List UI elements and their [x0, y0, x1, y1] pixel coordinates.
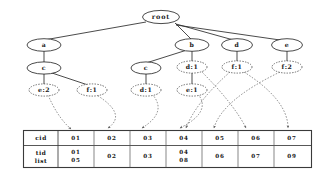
table-cell-cid-7: 07: [287, 135, 296, 141]
node-c-left[interactable]: c: [27, 62, 61, 74]
node-e2[interactable]: e:2: [29, 84, 59, 96]
node-e1[interactable]: e:1: [177, 84, 207, 96]
table-row-label-tid: tid: [36, 150, 47, 156]
link-f1top-to-col04b: [186, 72, 230, 128]
tree-nodes: root a b d e c c d:1: [27, 10, 303, 96]
node-e[interactable]: e: [272, 39, 303, 52]
tree-edges: [44, 22, 287, 85]
table-cell-cid-4: 04: [179, 135, 188, 141]
table-cell-tid-5: 06: [215, 153, 224, 159]
node-f1-bot[interactable]: f:1: [77, 84, 107, 96]
node-d1-bot[interactable]: d:1: [131, 84, 161, 96]
node-b[interactable]: b: [175, 39, 209, 52]
link-d1bot-to-col03: [142, 94, 158, 128]
node-e2-label: e:2: [38, 86, 50, 93]
link-e2-to-col01: [48, 95, 71, 129]
table-cell-cid-5: 05: [215, 135, 224, 141]
edge-b-cmid: [146, 50, 187, 63]
node-f1-bot-label: f:1: [87, 86, 98, 93]
node-e-label: e: [285, 41, 290, 48]
node-root-label: root: [152, 13, 170, 21]
node-c-left-label: c: [42, 64, 46, 71]
table-row-label-cid: cid: [35, 135, 47, 141]
node-d-label: d: [235, 41, 240, 48]
table-outer-frame: [24, 131, 312, 168]
link-f1top-to-col07: [244, 72, 288, 128]
node-c-mid[interactable]: c: [131, 62, 161, 74]
table-cell-tid-2: 02: [107, 153, 116, 159]
table-cell-tid-3: 03: [143, 153, 152, 159]
fp-tree-diagram: root a b d e c c d:1: [0, 0, 321, 178]
link-f1bot-to-col02: [95, 94, 116, 128]
cid-tid-table: cid tid list 01 02 03 04 05 06 07 01 05 …: [24, 131, 312, 168]
node-b-label: b: [190, 41, 195, 48]
table-row-label-list: list: [35, 158, 48, 164]
table-cell-tid-4a: 04: [179, 149, 188, 155]
node-d[interactable]: d: [222, 39, 253, 52]
node-f1-top[interactable]: f:1: [222, 61, 252, 73]
table-cell-cid-1: 01: [71, 135, 80, 141]
node-d1-bot-label: d:1: [140, 86, 153, 93]
node-d1-top[interactable]: d:1: [177, 61, 207, 73]
node-f2-top-label: f:2: [282, 63, 293, 70]
node-c-mid-label: c: [144, 64, 148, 71]
node-a-label: a: [42, 41, 47, 48]
table-cell-tid-7: 09: [287, 153, 296, 159]
node-root[interactable]: root: [143, 10, 180, 23]
node-link-arrows: [48, 70, 288, 129]
node-f2-top[interactable]: f:2: [272, 61, 302, 73]
node-f1-top-label: f:1: [232, 63, 243, 70]
table-cell-tid-1a: 01: [71, 149, 80, 155]
table-cell-cid-3: 03: [143, 135, 152, 141]
table-cell-tid-1b: 05: [71, 157, 80, 163]
table-cell-tid-6: 07: [251, 153, 260, 159]
link-e1-to-col04: [180, 94, 202, 128]
table-cell-tid-4b: 08: [179, 157, 188, 163]
table-cell-cid-6: 06: [251, 135, 260, 141]
node-a[interactable]: a: [27, 39, 61, 52]
link-f2top-to-col05: [214, 72, 280, 128]
node-e1-label: e:1: [186, 86, 198, 93]
edge-root-a: [44, 22, 146, 40]
node-d1-top-label: d:1: [186, 63, 199, 70]
table-cell-cid-2: 02: [107, 135, 116, 141]
edge-c-f1: [49, 72, 88, 85]
